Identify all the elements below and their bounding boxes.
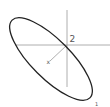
axis-label-1: 1 bbox=[95, 101, 98, 107]
axis-label-x: x bbox=[47, 58, 51, 65]
diagonal-x-axis bbox=[50, 45, 67, 61]
axis-label-2: 2 bbox=[70, 34, 76, 44]
ellipse-diagram: 2 x 1 bbox=[0, 0, 110, 107]
tilted-ellipse bbox=[0, 6, 104, 107]
